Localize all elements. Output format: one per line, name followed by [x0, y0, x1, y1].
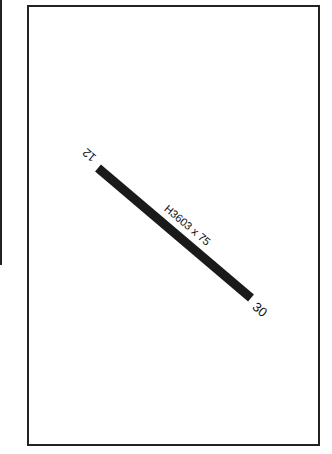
runway-diagram: 12 30 H3603 x 75 — [0, 0, 332, 454]
runway-end-label-12: 12 — [80, 145, 99, 165]
runway-strip — [98, 168, 251, 298]
runway-end-label-30: 30 — [250, 299, 271, 320]
